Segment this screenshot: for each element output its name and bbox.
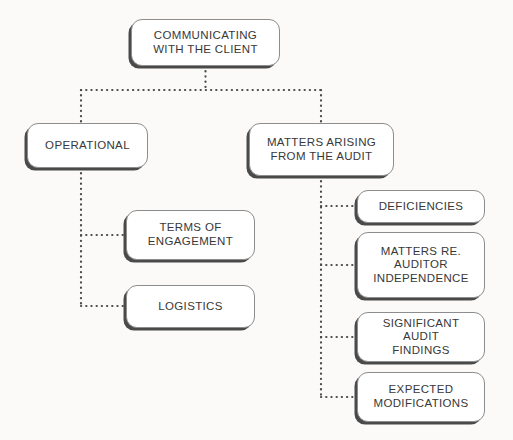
node-label: TERMS OF ENGAGEMENT xyxy=(142,221,239,248)
node-terms-of-engagement[interactable]: TERMS OF ENGAGEMENT xyxy=(126,210,255,260)
node-label: MATTERS ARISING FROM THE AUDIT xyxy=(261,136,382,163)
node-label: OPERATIONAL xyxy=(39,139,136,153)
node-label: EXPECTED MODIFICATIONS xyxy=(367,383,474,410)
node-label: COMMUNICATING WITH THE CLIENT xyxy=(147,29,264,56)
node-deficiencies[interactable]: DEFICIENCIES xyxy=(357,190,485,223)
node-label: LOGISTICS xyxy=(152,300,229,314)
node-expected-modifications[interactable]: EXPECTED MODIFICATIONS xyxy=(357,372,485,422)
node-matters-re-auditor-independence[interactable]: MATTERS RE. AUDITOR INDEPENDENCE xyxy=(357,232,485,298)
node-logistics[interactable]: LOGISTICS xyxy=(126,285,255,328)
node-label: MATTERS RE. AUDITOR INDEPENDENCE xyxy=(367,245,475,286)
node-matters-arising-from-the-audit[interactable]: MATTERS ARISING FROM THE AUDIT xyxy=(249,123,394,176)
node-communicating-with-the-client[interactable]: COMMUNICATING WITH THE CLIENT xyxy=(131,19,280,66)
node-label: DEFICIENCIES xyxy=(373,200,470,214)
org-chart-diagram: COMMUNICATING WITH THE CLIENT OPERATIONA… xyxy=(0,0,513,440)
node-significant-audit-findings[interactable]: SIGNIFICANT AUDIT FINDINGS xyxy=(357,312,485,362)
node-label: SIGNIFICANT AUDIT FINDINGS xyxy=(358,317,484,358)
node-operational[interactable]: OPERATIONAL xyxy=(27,123,148,168)
